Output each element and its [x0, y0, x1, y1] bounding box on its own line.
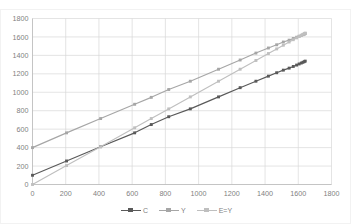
y-tick-label: 1600 — [13, 33, 29, 42]
data-point-marker — [282, 69, 285, 72]
data-point-marker — [99, 145, 102, 148]
x-tick-label: 0 — [31, 189, 35, 198]
data-point-marker — [189, 80, 192, 83]
legend-swatch-icon — [121, 207, 141, 214]
data-point-marker — [254, 80, 257, 83]
legend-label: C — [143, 207, 148, 214]
x-tick-label: 800 — [159, 189, 171, 198]
legend-item-ey[interactable]: E=Y — [197, 207, 232, 214]
data-point-marker — [217, 80, 220, 83]
legend-label: Y — [181, 207, 186, 214]
x-tick-label: 200 — [60, 189, 72, 198]
chart-plot-frame: 020040060080010001200140016001800 020040… — [0, 9, 351, 224]
clipped-text-strip — [0, 0, 351, 9]
data-point-marker — [267, 47, 270, 50]
x-tick-label: 400 — [93, 189, 105, 198]
data-point-marker — [217, 68, 220, 71]
data-point-marker — [295, 64, 298, 67]
x-tick-label: 1000 — [191, 189, 207, 198]
data-point-marker — [254, 59, 257, 62]
data-point-marker — [217, 95, 220, 98]
x-tick-label: 1600 — [290, 189, 306, 198]
y-tick-label: 0 — [25, 180, 29, 189]
data-point-marker — [275, 71, 278, 74]
data-point-marker — [254, 52, 257, 55]
data-point-marker — [133, 126, 136, 129]
data-point-marker — [288, 67, 291, 70]
legend-item-c[interactable]: C — [121, 207, 148, 214]
series-line-c — [33, 61, 306, 175]
y-tick-label: 1200 — [13, 69, 29, 78]
x-tick-label: 1400 — [257, 189, 273, 198]
data-point-marker — [31, 146, 34, 149]
data-point-marker — [65, 131, 68, 134]
data-point-marker — [150, 96, 153, 99]
data-point-marker — [65, 164, 68, 167]
x-tick-label: 1200 — [224, 189, 240, 198]
data-point-marker — [189, 95, 192, 98]
chart-canvas: 020040060080010001200140016001800 020040… — [1, 10, 351, 224]
data-point-marker — [288, 41, 291, 44]
data-point-marker — [189, 107, 192, 110]
data-point-marker — [267, 52, 270, 55]
data-point-marker — [239, 68, 242, 71]
data-point-marker — [31, 174, 34, 177]
y-tick-label: 1400 — [13, 51, 29, 60]
y-tick-label: 1000 — [13, 88, 29, 97]
y-axis-tick-labels: 020040060080010001200140016001800 — [13, 14, 29, 189]
legend-swatch-icon — [197, 207, 217, 214]
data-point-marker — [99, 117, 102, 120]
y-tick-label: 200 — [17, 162, 29, 171]
y-tick-label: 600 — [17, 125, 29, 134]
data-point-marker — [304, 60, 307, 63]
data-point-marker — [239, 59, 242, 62]
legend-label: E=Y — [219, 207, 232, 214]
data-point-marker — [150, 123, 153, 126]
data-point-marker — [239, 86, 242, 89]
y-tick-label: 400 — [17, 143, 29, 152]
data-point-marker — [292, 38, 295, 41]
data-point-marker — [267, 75, 270, 78]
data-point-marker — [65, 160, 68, 163]
data-point-marker — [292, 65, 295, 68]
data-point-marker — [150, 117, 153, 120]
data-point-marker — [275, 47, 278, 50]
data-point-marker — [282, 41, 285, 44]
data-point-marker — [282, 44, 285, 47]
data-point-marker — [167, 88, 170, 91]
x-axis-tick-labels: 020040060080010001200140016001800 — [31, 189, 340, 198]
legend-item-y[interactable]: Y — [159, 207, 186, 214]
data-point-marker — [133, 131, 136, 134]
data-point-marker — [167, 107, 170, 110]
x-tick-label: 1800 — [324, 189, 340, 198]
data-point-marker — [133, 103, 136, 106]
data-point-marker — [31, 183, 34, 186]
chart-legend: CYE=Y — [1, 202, 351, 218]
data-point-marker — [275, 43, 278, 46]
data-point-marker — [304, 32, 307, 35]
y-tick-label: 1800 — [13, 14, 29, 23]
chart-container: 020040060080010001200140016001800 020040… — [0, 0, 351, 224]
y-tick-label: 800 — [17, 106, 29, 115]
data-point-marker — [167, 115, 170, 118]
x-tick-label: 600 — [126, 189, 138, 198]
data-point-marker — [295, 36, 298, 39]
legend-swatch-icon — [159, 207, 179, 214]
